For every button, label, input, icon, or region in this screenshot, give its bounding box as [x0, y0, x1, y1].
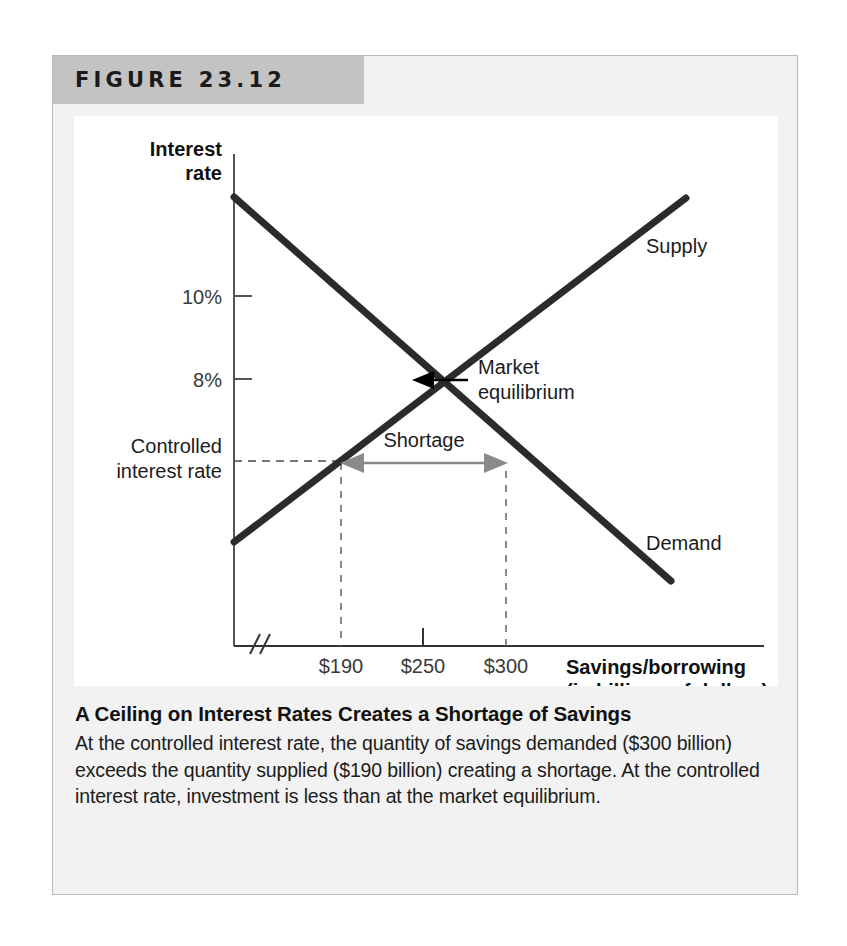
x-axis-title-sub: (in billions of dollars)	[566, 680, 768, 686]
caption-title: A Ceiling on Interest Rates Creates a Sh…	[75, 701, 775, 727]
shortage-arrow-icon	[340, 453, 508, 473]
controlled-rate-label-line1: Controlled	[131, 435, 222, 457]
demand-curve	[234, 197, 671, 581]
supply-demand-chart: 10% 8% Interest rate Controlled interest…	[74, 116, 778, 686]
figure-header: FIGURE 23.12	[53, 56, 364, 104]
figure-number-label: FIGURE 23.12	[53, 68, 286, 92]
x-tick-label-300: $300	[484, 655, 529, 677]
shortage-label: Shortage	[383, 429, 464, 451]
axis-break-icon	[250, 634, 270, 654]
x-tick-label-190: $190	[319, 655, 364, 677]
supply-curve-label: Supply	[646, 235, 707, 257]
controlled-rate-label-line2: interest rate	[116, 460, 222, 482]
x-axis-title: Savings/borrowing	[566, 656, 746, 678]
figure-caption: A Ceiling on Interest Rates Creates a Sh…	[75, 701, 775, 810]
y-axis-title-line1: Interest	[150, 138, 223, 160]
y-tick-label-8: 8%	[193, 369, 222, 391]
x-tick-label-250: $250	[401, 655, 446, 677]
y-axis-title-line2: rate	[185, 162, 222, 184]
figure-panel: FIGURE 23.12 10% 8% Interest rate Contro…	[52, 55, 798, 895]
caption-body: At the controlled interest rate, the qua…	[75, 730, 775, 810]
y-tick-label-10: 10%	[182, 286, 222, 308]
supply-curve	[234, 198, 686, 542]
market-equilibrium-label-line2: equilibrium	[478, 381, 575, 403]
demand-curve-label: Demand	[646, 532, 722, 554]
market-equilibrium-label-line1: Market	[478, 356, 540, 378]
chart-plot-area: 10% 8% Interest rate Controlled interest…	[74, 116, 778, 686]
